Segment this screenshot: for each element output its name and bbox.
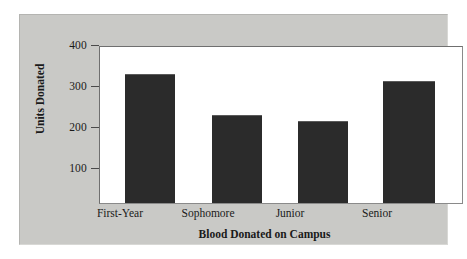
y-tick-mark-300 — [91, 86, 99, 87]
y-tick-label-100-wrap: 100 — [51, 163, 87, 175]
y-tick-mark-400 — [91, 45, 99, 46]
plot-area — [99, 46, 463, 204]
x-category-label-first-year: First-Year — [84, 207, 156, 219]
y-tick-label-100: 100 — [53, 163, 87, 175]
y-tick-label-400-wrap: 400 — [51, 40, 87, 52]
y-tick-label-300-wrap: 300 — [51, 81, 87, 93]
y-tick-label-400: 400 — [53, 40, 87, 52]
y-tick-label-200: 200 — [53, 122, 87, 134]
chart-page: Units Donated 400 300 200 100 First-Year… — [0, 0, 467, 259]
bar-senior — [383, 81, 435, 203]
y-tick-mark-100 — [91, 168, 99, 169]
x-category-label-sophomore: Sophomore — [168, 207, 248, 219]
y-tick-label-200-wrap: 200 — [51, 122, 87, 134]
x-category-label-senior: Senior — [342, 207, 412, 219]
figure-panel: Units Donated 400 300 200 100 First-Year… — [19, 14, 448, 245]
y-axis-title: Units Donated — [34, 51, 46, 147]
bar-sophomore — [212, 115, 262, 203]
y-tick-mark-200 — [91, 127, 99, 128]
bar-first-year — [125, 74, 175, 203]
x-axis-title: Blood Donated on Campus — [80, 228, 449, 240]
x-category-label-junior: Junior — [258, 207, 322, 219]
bar-junior — [298, 121, 348, 203]
y-tick-label-300: 300 — [53, 81, 87, 93]
